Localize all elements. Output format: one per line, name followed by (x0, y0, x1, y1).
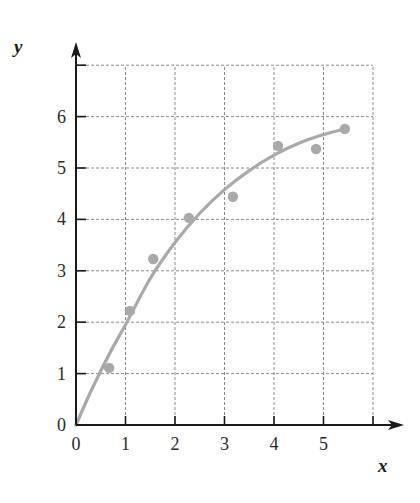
axes (71, 42, 404, 430)
data-points (104, 124, 350, 373)
data-point (273, 141, 283, 151)
x-tick-label: 0 (72, 434, 81, 454)
y-tick-label: 3 (57, 261, 66, 281)
chart: 0123450123456 y x (0, 0, 420, 503)
y-axis-label: y (12, 36, 23, 57)
data-point (228, 192, 238, 202)
fitted-curve (76, 129, 345, 425)
data-point (148, 254, 158, 264)
x-tick-label: 1 (121, 434, 130, 454)
data-point (104, 363, 114, 373)
curve-path (76, 129, 345, 425)
y-tick-label: 2 (57, 312, 66, 332)
y-tick-label: 5 (57, 158, 66, 178)
x-tick-label: 5 (319, 434, 328, 454)
data-point (125, 306, 135, 316)
y-tick-label: 0 (57, 415, 66, 435)
x-tick-label: 4 (270, 434, 279, 454)
data-point (184, 213, 194, 223)
grid-lines (76, 65, 373, 425)
y-tick-label: 1 (57, 364, 66, 384)
tick-labels: 0123450123456 (57, 107, 328, 454)
data-point (340, 124, 350, 134)
x-tick-label: 2 (171, 434, 180, 454)
y-tick-label: 4 (57, 209, 66, 229)
data-point (311, 144, 321, 154)
y-tick-label: 6 (57, 107, 66, 127)
x-axis-label: x (377, 455, 388, 476)
x-tick-label: 3 (220, 434, 229, 454)
